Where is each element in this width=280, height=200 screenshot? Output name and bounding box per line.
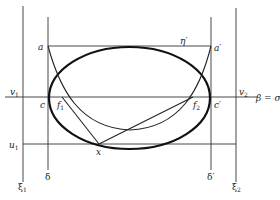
label-xi2: ξ2 xyxy=(232,182,241,193)
main-ellipse xyxy=(49,47,210,149)
eta-prime-curve xyxy=(48,46,211,130)
label-eta-prime: η′ xyxy=(180,36,187,46)
label-xi1: ξ1 xyxy=(18,182,27,193)
label-u1: u1 xyxy=(9,140,19,151)
label-c: c xyxy=(40,100,45,110)
label-beta-sigma: β = σ xyxy=(255,93,280,103)
label-c-prime: c′ xyxy=(214,100,221,110)
label-v1: v1 xyxy=(10,87,19,98)
f1-x-line xyxy=(62,97,99,144)
label-f1: f1 xyxy=(56,100,64,111)
label-delta-prime: δ′ xyxy=(207,172,214,182)
label-a-prime: a′ xyxy=(214,43,221,53)
label-delta: δ xyxy=(45,172,50,182)
label-x: x xyxy=(96,147,101,157)
label-v2: v2 xyxy=(239,87,248,98)
ellipse-diagram: a a′ η′ v1 v2 β = σ c c′ f1 f2 u1 x ξ1 δ… xyxy=(0,0,280,200)
label-a: a xyxy=(38,42,43,52)
label-f2: f2 xyxy=(192,100,200,111)
f2-x-line xyxy=(99,97,193,144)
